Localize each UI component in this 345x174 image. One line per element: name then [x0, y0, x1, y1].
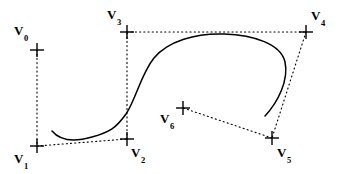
- label-v3: V3: [107, 8, 121, 24]
- marker-v5[interactable]: [265, 131, 279, 145]
- label-v5: V5: [277, 146, 291, 162]
- marker-v4[interactable]: [299, 25, 313, 39]
- polygon-segment-v1-v2: [37, 139, 127, 146]
- marker-v6[interactable]: [176, 101, 190, 115]
- label-v1-letter: V: [14, 151, 23, 166]
- label-v0-letter: V: [14, 23, 23, 38]
- label-v3-letter: V: [107, 7, 116, 22]
- label-v2-letter: V: [131, 145, 140, 160]
- label-v2: V2: [131, 146, 145, 162]
- marker-v2[interactable]: [120, 132, 134, 146]
- label-v4-subscript: 4: [321, 18, 325, 28]
- label-v4-letter: V: [311, 8, 320, 23]
- label-v5-subscript: 5: [287, 155, 291, 165]
- label-v5-letter: V: [277, 145, 286, 160]
- label-v0-subscript: 0: [24, 33, 28, 43]
- label-v2-subscript: 2: [141, 155, 145, 165]
- label-v0: V0: [14, 24, 28, 40]
- label-v3-subscript: 3: [117, 17, 121, 27]
- marker-v1[interactable]: [30, 139, 44, 153]
- marker-v0[interactable]: [30, 43, 44, 57]
- label-v6-subscript: 6: [170, 121, 174, 131]
- label-v6-letter: V: [160, 111, 169, 126]
- label-v1: V1: [14, 152, 28, 168]
- figure-canvas: [0, 0, 345, 174]
- polygon-segment-v4-v5: [272, 32, 306, 138]
- marker-v3[interactable]: [120, 25, 134, 39]
- label-v1-subscript: 1: [24, 161, 28, 171]
- label-v6: V6: [160, 112, 174, 128]
- polygon-segment-v5-v6: [183, 108, 272, 138]
- label-v4: V4: [311, 9, 325, 25]
- bspline-figure: V0 V1 V2 V3 V4 V5 V6: [0, 0, 345, 174]
